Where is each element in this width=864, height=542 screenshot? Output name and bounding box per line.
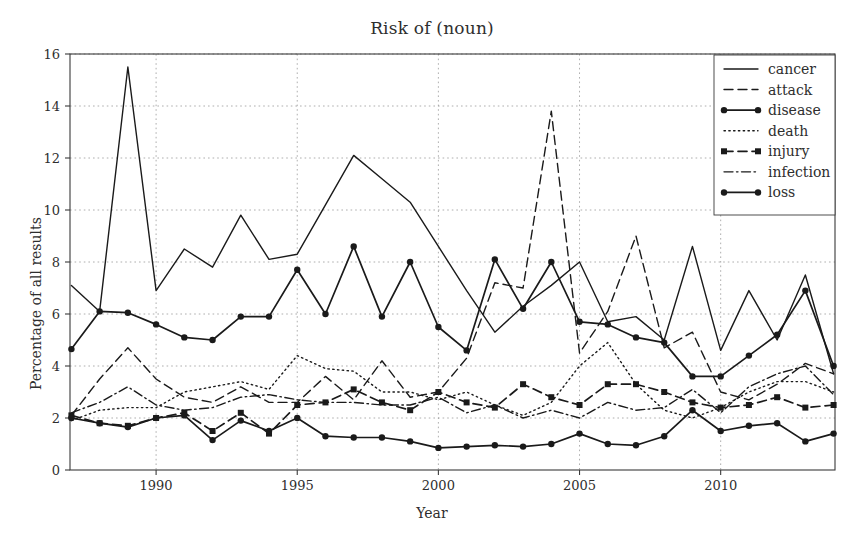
x-tick-label: 1990: [140, 478, 173, 493]
chart-legend: cancerattackdiseasedeathinjuryinfectionl…: [714, 55, 835, 215]
y-tick-label: 2: [52, 411, 60, 426]
data-point: [294, 415, 300, 421]
data-point: [125, 310, 131, 316]
data-point: [68, 346, 74, 352]
data-point: [181, 334, 187, 340]
data-point: [181, 412, 187, 418]
data-point: [492, 256, 498, 262]
data-point: [294, 402, 300, 408]
data-point: [407, 259, 413, 265]
data-point: [435, 389, 441, 395]
data-point: [774, 394, 780, 400]
series-loss: [68, 407, 837, 451]
y-tick-label: 4: [52, 359, 60, 374]
data-point: [266, 313, 272, 319]
data-point: [379, 313, 385, 319]
data-point: [125, 424, 131, 430]
data-point: [407, 407, 413, 413]
data-point: [209, 337, 215, 343]
y-tick-label: 14: [43, 99, 60, 114]
series-disease: [68, 243, 837, 379]
data-point: [379, 434, 385, 440]
data-point: [661, 389, 667, 395]
data-point: [492, 442, 498, 448]
data-point: [661, 433, 667, 439]
data-point: [351, 386, 357, 392]
data-point: [802, 438, 808, 444]
legend-marker: [721, 107, 727, 113]
data-point: [464, 399, 470, 405]
series-line-disease: [71, 246, 833, 376]
data-point: [605, 441, 611, 447]
data-point: [463, 347, 469, 353]
data-point: [520, 306, 526, 312]
y-tick-label: 10: [43, 203, 60, 218]
data-point: [548, 441, 554, 447]
data-point: [238, 410, 244, 416]
legend-marker: [755, 148, 761, 154]
data-point: [238, 313, 244, 319]
data-point: [830, 430, 836, 436]
data-point: [831, 402, 837, 408]
x-tick-label: 1995: [281, 478, 314, 493]
data-point: [689, 399, 695, 405]
data-point: [68, 415, 74, 421]
data-point: [633, 442, 639, 448]
legend-marker: [755, 107, 761, 113]
data-point: [633, 381, 639, 387]
data-point: [520, 381, 526, 387]
x-tick-label: 2005: [563, 478, 596, 493]
data-point: [746, 402, 752, 408]
legend-label-loss: loss: [768, 184, 795, 200]
data-point: [576, 319, 582, 325]
data-point: [96, 308, 102, 314]
legend-label-death: death: [768, 123, 808, 139]
data-point: [435, 324, 441, 330]
data-point: [802, 287, 808, 293]
data-point: [350, 243, 356, 249]
legend-label-injury: injury: [768, 143, 810, 159]
legend-marker: [721, 189, 727, 195]
data-point: [746, 352, 752, 358]
data-point: [774, 420, 780, 426]
data-point: [746, 423, 752, 429]
data-point: [802, 405, 808, 411]
axis-tick-labels: 024681012141619901995200020052010: [43, 47, 737, 494]
data-point: [153, 321, 159, 327]
legend-marker: [721, 148, 727, 154]
data-point: [520, 443, 526, 449]
y-tick-label: 0: [52, 463, 60, 478]
x-tick-label: 2000: [422, 478, 455, 493]
data-point: [830, 363, 836, 369]
data-point: [322, 311, 328, 317]
data-point: [238, 417, 244, 423]
data-point: [435, 445, 441, 451]
y-tick-label: 6: [52, 307, 60, 322]
data-point: [661, 339, 667, 345]
legend-label-cancer: cancer: [768, 61, 816, 77]
data-point: [577, 402, 583, 408]
legend-label-attack: attack: [768, 82, 813, 98]
data-point: [605, 381, 611, 387]
data-point: [96, 420, 102, 426]
x-tick-label: 2010: [704, 478, 737, 493]
y-tick-label: 8: [52, 255, 60, 270]
data-point: [548, 394, 554, 400]
chart-figure: Risk of (noun) Percentage of all results…: [0, 0, 864, 542]
data-point: [463, 443, 469, 449]
data-point: [576, 430, 582, 436]
data-point: [605, 321, 611, 327]
data-point: [153, 415, 159, 421]
data-point: [774, 332, 780, 338]
data-point: [407, 438, 413, 444]
data-point: [209, 437, 215, 443]
data-point: [689, 373, 695, 379]
y-tick-label: 16: [43, 47, 60, 62]
legend-label-disease: disease: [768, 102, 821, 118]
legend-label-infection: infection: [768, 164, 830, 180]
data-point: [350, 434, 356, 440]
data-point: [548, 259, 554, 265]
legend-marker: [755, 189, 761, 195]
data-point: [717, 373, 723, 379]
data-point: [210, 428, 216, 434]
